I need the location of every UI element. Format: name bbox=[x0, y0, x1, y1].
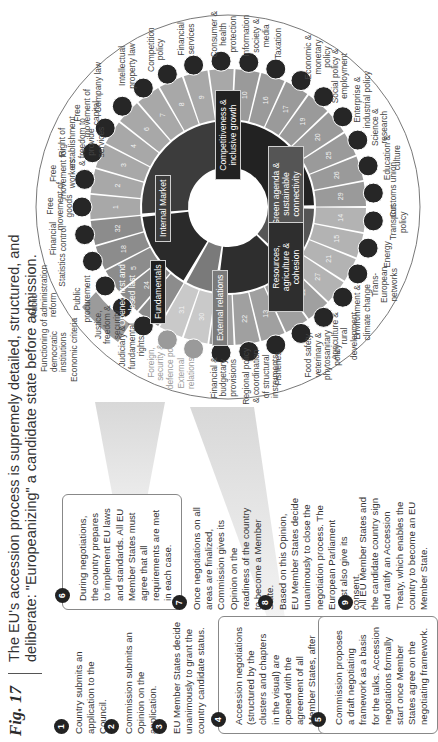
cluster-label-internal-market: Internal Market bbox=[155, 175, 171, 242]
step-number: 4 bbox=[211, 712, 226, 727]
step-text: All EU Member States and the candidate c… bbox=[357, 497, 429, 610]
chapters-wheel: 2324518321234678928101617192025262914152… bbox=[0, 0, 425, 442]
chapter-number: 21 bbox=[325, 255, 332, 263]
chapter-label: Regional policy & coordination of struct… bbox=[242, 347, 280, 405]
chapter-number: 8 bbox=[178, 102, 185, 106]
chapter-icon bbox=[333, 287, 353, 307]
chapter-icon bbox=[363, 211, 383, 231]
chapter-label: Justice, freedom & security bbox=[94, 296, 123, 354]
step-number: 2 bbox=[104, 719, 119, 734]
chapter-number: 6 bbox=[143, 127, 150, 131]
chapter-number: 1 bbox=[112, 205, 119, 209]
chapter-number: 26 bbox=[333, 171, 340, 179]
chapter-number: 14 bbox=[337, 214, 344, 222]
step-6: 6 During negotiations, the country prepa… bbox=[62, 494, 182, 610]
chapter-label: Financial & budgetary provisions bbox=[210, 349, 239, 407]
chapter-label: Intellectual property law bbox=[118, 37, 137, 95]
chapter-number: 15 bbox=[333, 235, 340, 243]
cluster-label-external-relations: External relations bbox=[212, 270, 228, 346]
chapter-number: 9 bbox=[198, 95, 205, 99]
step-number: 7 bbox=[172, 595, 187, 610]
chapter-label: Social policy & employment bbox=[331, 47, 350, 105]
step-text: EU Member States decide unanimously to g… bbox=[171, 622, 206, 734]
chapter-label: Economic & monetary policy bbox=[304, 28, 333, 86]
step-number: 8 bbox=[258, 595, 273, 610]
chapter-label: Foreign, security & defence policy bbox=[147, 333, 176, 391]
chapter-label: Consumer & health protection bbox=[210, 5, 239, 63]
chapter-icon bbox=[112, 96, 132, 116]
chapter-number: 31 bbox=[178, 306, 185, 314]
step-text: Accession negotiations (structured by th… bbox=[233, 627, 329, 725]
figure-label: Fig. 17 bbox=[6, 686, 26, 736]
chapter-number: 3 bbox=[120, 163, 127, 167]
chapter-number: 16 bbox=[262, 96, 269, 104]
chapter-label: Public procurement bbox=[73, 270, 92, 328]
cluster-label-competitiveness: Competitiveness & inclusive growth bbox=[215, 90, 241, 180]
divider bbox=[8, 673, 42, 674]
chapter-label: Company law bbox=[94, 58, 104, 116]
chapter-number: 19 bbox=[299, 118, 306, 126]
step-text: Commission proposes a draft negotiating … bbox=[333, 627, 429, 725]
chapter-icon bbox=[363, 183, 383, 203]
chapter-icon bbox=[75, 225, 95, 245]
chapter-number: 29 bbox=[337, 192, 344, 200]
step-9: 9 All EU Member States and the candidate… bbox=[338, 492, 430, 610]
chapter-number: 32 bbox=[114, 224, 121, 232]
chapter-number: 7 bbox=[159, 113, 166, 117]
step-number: 1 bbox=[54, 719, 69, 734]
chapter-label: Food safety, veterinary & phytosanitary … bbox=[304, 326, 342, 384]
chapter-icon bbox=[348, 264, 368, 284]
chapter-label: Taxation bbox=[274, 14, 284, 72]
step-1: 1 Country submits an application to the … bbox=[54, 634, 110, 734]
step-5: 5 Commission proposes a draft negotiatin… bbox=[318, 616, 438, 734]
chapter-label: Information society & media bbox=[242, 7, 271, 65]
cluster-label-fundamentals: Fundamentals bbox=[150, 260, 166, 324]
chapter-number: 22 bbox=[241, 315, 248, 323]
chapter-label: Competition policy bbox=[147, 21, 166, 79]
chapter-icon bbox=[82, 251, 102, 271]
chapter-label: Judiciary & fundamental rights bbox=[118, 317, 147, 375]
step-number: 5 bbox=[311, 712, 326, 727]
chapter-number: 25 bbox=[325, 151, 332, 159]
chapter-label: Financial services bbox=[177, 10, 196, 68]
cluster-label-resources: Resources, agriculture & cohesion bbox=[268, 222, 304, 312]
chapter-icon bbox=[95, 276, 115, 296]
chapter-number: 20 bbox=[314, 133, 321, 141]
step-number: 3 bbox=[152, 719, 167, 734]
chapter-number: 2 bbox=[114, 184, 121, 188]
chapter-number: 27 bbox=[314, 273, 321, 281]
step-text: During negotiations, the country prepare… bbox=[77, 508, 173, 601]
chapter-number: 18 bbox=[120, 245, 127, 253]
chapter-number: 17 bbox=[282, 105, 289, 113]
chapter-icon bbox=[333, 107, 353, 127]
chapter-icon bbox=[348, 130, 368, 150]
chapter-icon bbox=[358, 156, 378, 176]
chapter-number: 4 bbox=[130, 144, 137, 148]
chapter-label: External relations bbox=[177, 344, 196, 402]
chapter-number: 30 bbox=[198, 313, 205, 321]
step-number: 6 bbox=[55, 588, 70, 603]
step-3: 3 EU Member States decide unanimously to… bbox=[152, 622, 208, 734]
chapter-label: Trans-European networks bbox=[371, 256, 400, 314]
step-number: 9 bbox=[338, 595, 353, 610]
chapter-number: 10 bbox=[241, 91, 248, 99]
